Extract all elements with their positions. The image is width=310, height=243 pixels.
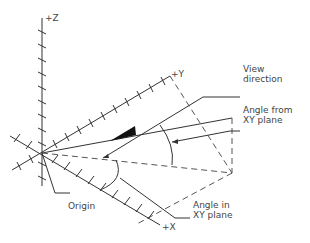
view-direction-label: View direction [243, 64, 282, 84]
view-direction-arrow-icon [110, 126, 136, 141]
x-axis [10, 136, 160, 225]
origin-label: Origin [68, 201, 95, 211]
z-axis-label: +Z [45, 13, 59, 23]
view-direction-diagram: +Z +Y +X View direction Angle from XY pl… [0, 0, 310, 243]
angle-in-xy-label: Angle in XY plane [193, 200, 233, 220]
x-axis-label: +X [162, 222, 176, 232]
angle-from-xy-label: Angle from XY plane [243, 105, 292, 125]
y-axis-label: +Y [171, 69, 184, 79]
angle-in-xy-arc [100, 160, 118, 190]
